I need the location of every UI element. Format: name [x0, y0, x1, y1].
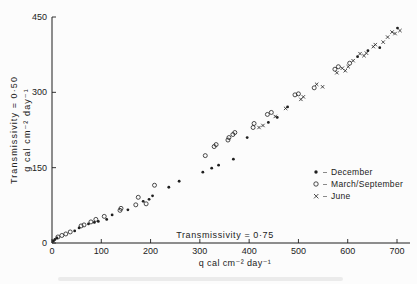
june-point	[321, 85, 324, 88]
june-point	[382, 40, 385, 43]
march-september-point	[265, 112, 269, 116]
december-point	[167, 186, 170, 189]
march-september-point	[60, 233, 64, 237]
june-point	[284, 107, 287, 110]
december-point	[111, 213, 114, 216]
legend: December March/September June	[311, 166, 403, 202]
march-september-point	[336, 65, 340, 69]
march-september-point	[252, 121, 256, 125]
december-point	[210, 167, 213, 170]
y-tick-label: 300	[32, 87, 47, 97]
scan-artifact	[58, 277, 343, 281]
march-september-point	[348, 61, 352, 65]
annotation-transmissivity-075: Transmissivity = 0·75	[176, 230, 274, 240]
december-point	[267, 121, 270, 124]
june-point	[398, 29, 401, 32]
december-point	[356, 55, 359, 58]
x-tick-label: 0	[49, 246, 54, 256]
march-september-point	[89, 220, 93, 224]
december-point	[201, 171, 204, 174]
december-point	[246, 136, 249, 139]
december-point	[232, 158, 235, 161]
june-point	[386, 35, 389, 38]
y-tick-label: 450	[32, 12, 47, 22]
legend-dash	[323, 184, 327, 185]
x-tick-label: 700	[389, 246, 404, 256]
december-point	[378, 46, 381, 49]
legend-label-december: December	[331, 167, 373, 177]
december-point	[217, 164, 220, 167]
y-tick-label: 0	[42, 238, 47, 248]
march-september-point	[312, 86, 316, 90]
december-point	[142, 200, 145, 203]
x-tick-label: 600	[340, 246, 355, 256]
legend-item-june: June	[311, 190, 403, 202]
x-tick-label: 300	[192, 246, 207, 256]
x-tick-label: 200	[143, 246, 158, 256]
x-tick-label: 500	[291, 246, 306, 256]
december-point	[151, 194, 154, 197]
legend-item-march-september: March/September	[311, 178, 403, 190]
y-axis-title-line2: g cal cm⁻² day⁻¹	[22, 88, 32, 172]
scatter-plot-canvas: Transmissivity = 0·50 g cal cm⁻² day⁻¹ T…	[0, 0, 417, 284]
march-september-point	[269, 110, 273, 114]
march-september-point	[68, 230, 72, 234]
june-point	[261, 124, 264, 127]
scatter-figure: Transmissivity = 0·50 g cal cm⁻² day⁻¹ T…	[0, 0, 417, 284]
y-axis-title-line1: Transmissivity = 0·50	[9, 76, 19, 184]
december-point	[105, 218, 108, 221]
legend-dash	[323, 172, 327, 173]
legend-dash	[323, 196, 327, 197]
december-point	[148, 198, 151, 201]
march-september-point	[203, 154, 207, 158]
legend-label-march-september: March/September	[331, 179, 403, 189]
june-point	[335, 71, 338, 74]
legend-item-december: December	[311, 166, 403, 178]
x-cross-icon	[311, 191, 321, 201]
june-point	[351, 59, 354, 62]
june-point	[302, 95, 305, 98]
open-circle-icon	[311, 179, 321, 189]
june-point	[257, 126, 260, 129]
june-point	[374, 43, 377, 46]
x-axis-title: q cal cm⁻² day⁻¹	[199, 258, 271, 268]
december-point	[73, 230, 76, 233]
march-september-point	[227, 136, 231, 140]
december-point	[178, 180, 181, 183]
june-point	[365, 51, 368, 54]
march-september-point	[102, 214, 106, 218]
x-tick-label: 100	[94, 246, 109, 256]
march-september-point	[153, 183, 157, 187]
y-tick-label: 150	[32, 163, 47, 173]
june-point	[358, 52, 361, 55]
filled-circle-icon	[311, 167, 321, 177]
march-september-point	[64, 232, 68, 236]
march-september-point	[136, 195, 140, 199]
march-september-point	[144, 202, 148, 206]
march-september-point	[94, 217, 98, 221]
december-point	[127, 208, 130, 211]
june-point	[315, 83, 318, 86]
march-september-point	[134, 203, 138, 207]
x-tick-label: 400	[242, 246, 257, 256]
march-september-point	[226, 138, 230, 142]
june-point	[344, 69, 347, 72]
june-point	[347, 65, 350, 68]
march-september-point	[251, 125, 255, 129]
legend-label-june: June	[331, 191, 351, 201]
